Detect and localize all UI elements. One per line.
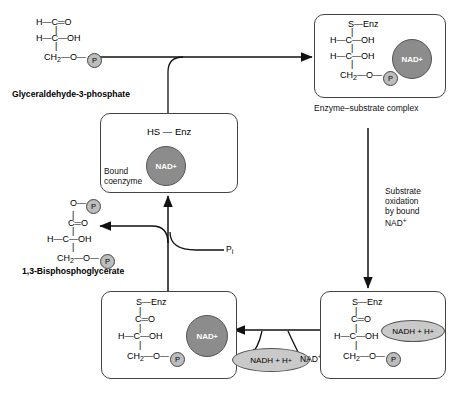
oxidation-line-4: NAD+ <box>385 216 421 228</box>
oxidation-nad: NAD <box>385 218 403 228</box>
substrate-name: Glyceraldehyde-3-phosphate <box>12 89 130 99</box>
oxidation-line-3: by bound <box>385 206 421 216</box>
ox-ch2: CH <box>343 351 356 361</box>
arrow-enzyme-joins-top <box>168 57 183 113</box>
oxidation-line-1: Substrate <box>385 186 421 196</box>
product-line-0: O—P <box>70 196 115 211</box>
nad-label: NAD <box>155 162 172 171</box>
es-line-2: H—C—OH <box>330 36 398 45</box>
thio-line-1: S—Enz <box>136 298 185 307</box>
thioester-nad-circle: NAD+ <box>186 315 228 357</box>
bound-nad-circle: NAD+ <box>146 146 186 186</box>
thioester-structure: S—Enz | C═O | H—C—OH | CH2—O—P <box>118 298 185 364</box>
thio-ch2: CH <box>127 351 140 361</box>
es-line-3: H—C—OH <box>330 52 398 61</box>
thio-o-link: —O— <box>144 351 169 361</box>
substrate-structure: H—C═O | H—C—OH | CH2—O—P <box>36 18 102 65</box>
pi-subscript: i <box>232 248 234 255</box>
nad-label: NAD <box>401 55 418 64</box>
thio-line-2: C═O <box>135 315 185 324</box>
product-o-link: O— <box>70 198 86 208</box>
oxidation-nad-charge: + <box>403 217 407 224</box>
substrate-line-3: CH2—O—P <box>44 50 102 65</box>
thio-line-4: CH2—O—P <box>127 349 185 364</box>
product-line-1: C═O <box>68 219 115 228</box>
bound-coenzyme-line1: Bound <box>104 166 142 176</box>
substrate-bond-2: | <box>55 43 102 50</box>
ox-line-4: CH2—O—P <box>343 349 401 364</box>
es-line-1: S—Enz <box>348 20 398 29</box>
ox-bond-3: | <box>355 341 401 349</box>
es-line-4: CH2—O—P <box>340 68 398 83</box>
ox-o-link: —O— <box>360 351 385 361</box>
nad-charge: + <box>173 163 177 170</box>
es-complex-caption: Enzyme–substrate complex <box>314 103 418 113</box>
es-o-link: —O— <box>357 70 382 80</box>
product-o-link-2: —O— <box>74 253 99 263</box>
nad-cofactor-circle: NAD+ <box>392 39 432 79</box>
substrate-o-link: —O— <box>61 52 86 62</box>
nad-incoming-label: NAD+ <box>300 353 322 364</box>
reaction-diagram: H—C═O | H—C—OH | CH2—O—P Glyceraldehyde-… <box>0 0 457 398</box>
inorganic-phosphate-label: Pi <box>226 244 233 255</box>
nadh-label: NADH + H <box>250 356 288 365</box>
nad-incoming-base: NAD <box>300 354 318 364</box>
es-complex-structure: S—Enz | H—C—OH | H—C—OH | CH2—O—P <box>330 20 398 83</box>
product-line-2: H—C—OH <box>47 235 115 244</box>
phosphate-icon: P <box>86 199 101 214</box>
product-ch2: CH <box>57 253 70 263</box>
product-bond-2: | <box>72 244 115 251</box>
bound-coenzyme-annotation: Bound coenzyme <box>104 166 142 186</box>
nadh-charge: + <box>430 328 434 335</box>
oxidation-line-2: oxidation <box>385 196 421 206</box>
nadh-charge: + <box>288 357 292 364</box>
es-ch2: CH <box>340 70 353 80</box>
nad-label: NAD <box>196 332 213 341</box>
nadh-released-ellipse: NADH + H+ <box>232 348 310 372</box>
arrow-pi-entry <box>170 232 224 250</box>
product-line-3: CH2—O—P <box>57 251 115 266</box>
substrate-line-1: H—C═O <box>36 18 102 27</box>
thio-bond-3: | <box>139 341 185 349</box>
bound-coenzyme-line2: coenzyme <box>104 176 142 186</box>
substrate-oxidation-annotation: Substrate oxidation by bound NAD+ <box>385 186 421 228</box>
ox-line-1: S—Enz <box>352 298 401 307</box>
phosphate-icon: P <box>383 71 398 86</box>
nad-charge: + <box>419 56 423 63</box>
phosphate-icon: P <box>386 352 401 367</box>
phosphate-icon: P <box>87 53 102 68</box>
substrate-line-2: H—C—OH <box>36 34 102 43</box>
es-bond-3: | <box>351 61 398 68</box>
thio-line-3: H—C—OH <box>118 332 185 341</box>
product-name: 1,3-Bisphosphoglycerate <box>22 266 124 276</box>
free-enzyme-label: HS — Enz <box>147 127 191 137</box>
oxidized-nadh-ellipse: NADH + H+ <box>381 320 445 342</box>
phosphate-icon: P <box>170 352 185 367</box>
product-structure: O—P | C═O | H—C—OH | CH2—O—P <box>44 196 115 266</box>
nad-charge: + <box>214 333 218 340</box>
substrate-ch2: CH <box>44 52 57 62</box>
nadh-label: NADH + H <box>392 327 430 336</box>
